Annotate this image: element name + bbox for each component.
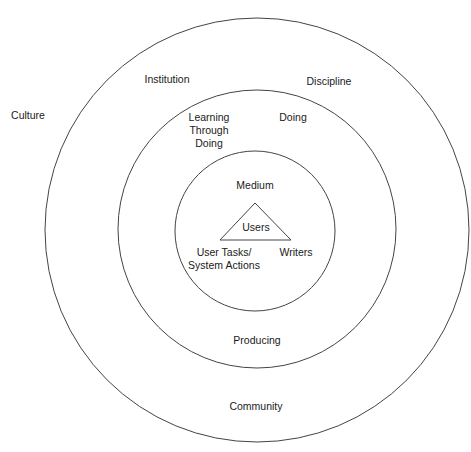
label-producing: Producing [233, 334, 280, 347]
label-user-tasks-line2: System Actions [188, 259, 260, 272]
concentric-diagram [0, 0, 471, 452]
label-writers: Writers [279, 246, 312, 259]
label-community: Community [229, 400, 282, 413]
label-learning-line1: Learning [189, 111, 230, 124]
label-learning-through-doing: Learning Through Doing [189, 111, 230, 150]
label-user-tasks-line1: User Tasks/ [188, 246, 260, 259]
label-medium: Medium [236, 179, 273, 192]
label-discipline: Discipline [307, 75, 352, 88]
label-learning-line3: Doing [189, 137, 230, 150]
label-learning-line2: Through [189, 124, 230, 137]
label-user-tasks: User Tasks/ System Actions [188, 246, 260, 272]
label-users: Users [242, 221, 269, 234]
label-institution: Institution [145, 73, 190, 86]
label-doing: Doing [279, 111, 306, 124]
label-culture: Culture [11, 109, 45, 122]
